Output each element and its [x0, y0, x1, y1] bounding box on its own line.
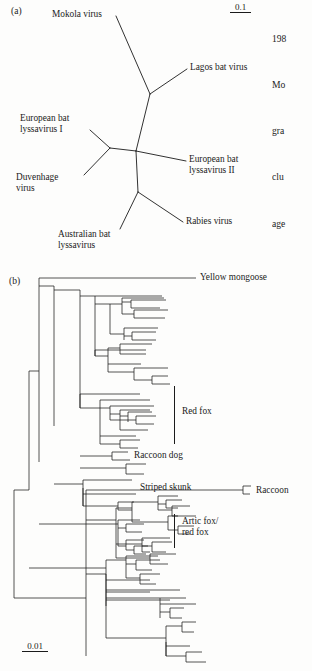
branch-duvenhage — [84, 148, 110, 175]
tip-label-red-fox: Red fox — [182, 406, 212, 417]
branch-ebl1 — [90, 130, 110, 148]
scale-bar-panel-b-rule — [22, 651, 48, 652]
scale-bar-panel-b-label: 0.01 — [22, 641, 48, 651]
panel-b: (b) — [0, 258, 312, 671]
panel-b-tree-graphic — [0, 258, 312, 671]
branch-sub-am — [106, 606, 166, 638]
tip-label-rabies-virus: Rabies virus — [186, 216, 232, 227]
body-text-line: clu — [272, 169, 312, 184]
tip-label-australian-bat-lyssavirus: Australian bat lyssavirus — [58, 229, 110, 250]
branch-sub-aa — [126, 570, 140, 578]
branch-internal-3 — [136, 151, 138, 192]
body-text-column: 198 Mo gra clu age nes the hos ate phy (… — [272, 0, 312, 240]
tip-label-yellow-mongoose: Yellow mongoose — [200, 272, 267, 283]
tip-label-european-bat-lyssavirus-1: European bat lyssavirus I — [20, 113, 69, 134]
branch-mokola — [116, 16, 150, 94]
panel-a: (a) — [0, 0, 265, 265]
branch-root — [14, 490, 29, 598]
tip-label-lagos-bat-virus: Lagos bat virus — [190, 62, 247, 73]
branch-internal-1 — [136, 94, 150, 151]
scale-bar-panel-a-label: 0.1 — [230, 2, 251, 12]
tip-label-raccoon-dog: Raccoon dog — [134, 450, 183, 461]
tip-label-raccoon: Raccoon — [256, 485, 289, 496]
bracket-artic-fox-red-fox — [174, 514, 175, 548]
tip-label-duvenhage-virus: Duvenhage virus — [16, 172, 58, 193]
scale-bar-panel-a: 0.1 — [230, 2, 251, 13]
branch-rabies — [138, 192, 183, 222]
scale-bar-panel-b: 0.01 — [22, 641, 48, 652]
tip-label-mokola-virus: Mokola virus — [52, 9, 102, 20]
body-text-line: 198 — [272, 31, 312, 46]
figure-root: (a) — [0, 0, 312, 671]
branch-internal-2 — [110, 148, 136, 151]
body-text-line: gra — [272, 123, 312, 138]
branch-tipJ — [95, 350, 146, 356]
branch-lagos — [150, 69, 187, 94]
tip-label-european-bat-lyssavirus-2: European bat lyssavirus II — [189, 154, 238, 175]
branch-australian — [120, 192, 138, 229]
branch-ebl2 — [136, 151, 186, 161]
scale-bar-panel-a-rule — [230, 12, 251, 13]
body-text-line: Mo — [272, 77, 312, 92]
bracket-red-fox — [174, 386, 175, 444]
body-text-line: age — [272, 216, 312, 231]
tip-label-artic-fox-red-fox: Artic fox/ red fox — [182, 516, 218, 537]
tip-label-striped-skunk: Striped skunk — [140, 482, 191, 493]
